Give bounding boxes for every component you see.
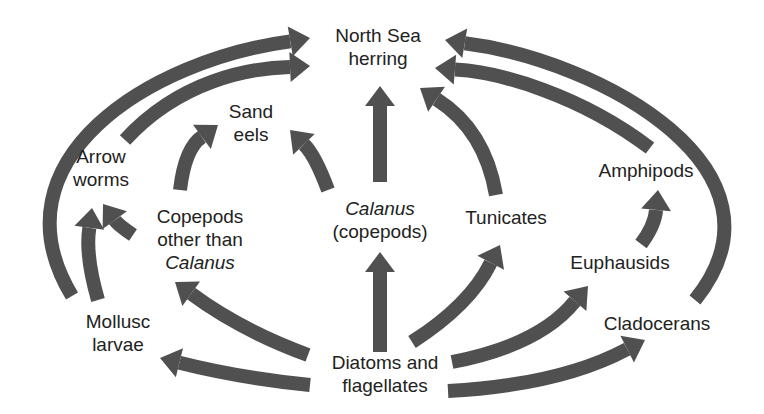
arrow-head-euphausids-to-amphipods (641, 190, 671, 211)
node-label-line: Cladocerans (604, 312, 711, 335)
node-arrow-worms: Arrowworms (73, 145, 129, 191)
node-label-line: larvae (86, 333, 150, 356)
arrow-shaft-copepods-other-to-sand-eels (180, 137, 202, 190)
arrow-shaft-diatoms-to-copepods-other (191, 294, 308, 355)
arrow-head-diatoms-to-calanus (365, 252, 395, 272)
node-label-line: North Sea (335, 24, 421, 47)
arrow-head-calanus-to-herring (365, 86, 395, 106)
node-label-line: Arrow (73, 145, 129, 168)
node-label-line: worms (73, 168, 129, 191)
food-web-diagram: North Seaherring Sandeels Arrowworms Cop… (0, 0, 764, 414)
node-label-line: Calanus (157, 251, 244, 274)
node-label-line: herring (335, 47, 421, 70)
node-tunicates: Tunicates (465, 206, 547, 229)
node-label-line: eels (229, 123, 273, 146)
node-label-line: other than (157, 228, 244, 251)
arrow-shaft-amphipods-to-herring (455, 70, 650, 148)
node-label-line: Mollusc (86, 310, 150, 333)
arrow-shaft-calanus-to-sand-eels (304, 144, 328, 190)
arrow-head-arrow-worms-to-herring (289, 52, 310, 82)
arrow-head-cladocerans-to-herring (445, 28, 467, 58)
node-copepods-other-than-calanus: Copepodsother thanCalanus (157, 205, 244, 274)
node-calanus-copepods: Calanus(copepods) (332, 197, 427, 243)
node-label-line: (copepods) (332, 220, 427, 243)
node-label-line: Copepods (157, 205, 244, 228)
arrow-shaft-tunicates-to-herring (437, 99, 496, 195)
arrow-head-mollusc-larvae-to-herring (288, 27, 310, 57)
node-north-sea-herring: North Seaherring (335, 24, 421, 70)
arrow-shaft-diatoms-to-tunicates (412, 263, 491, 342)
node-label-line: Diatoms and (332, 351, 439, 374)
arrow-head-mollusc-larvae-to-arrow-worms (74, 208, 104, 230)
arrow-shaft-diatoms-to-euphausids (452, 301, 575, 362)
node-label-line: Sand (229, 100, 273, 123)
node-sand-eels: Sandeels (229, 100, 273, 146)
node-label-line: Euphausids (570, 251, 669, 274)
node-label-line: Calanus (332, 197, 427, 220)
node-euphausids: Euphausids (570, 251, 669, 274)
arrow-shaft-euphausids-to-amphipods (641, 210, 656, 244)
node-label-line: flagellates (332, 374, 439, 397)
arrow-shaft-diatoms-to-mollusc-larvae (179, 363, 310, 385)
node-cladocerans: Cladocerans (604, 312, 711, 335)
arrow-shaft-copepods-other-to-arrow-worms (115, 220, 133, 235)
node-amphipods: Amphipods (598, 159, 693, 182)
node-label-line: Amphipods (598, 159, 693, 182)
node-diatoms-and-flagellates: Diatoms andflagellates (332, 351, 439, 397)
arrow-shaft-mollusc-larvae-to-arrow-worms (88, 228, 98, 300)
node-label-line: Tunicates (465, 206, 547, 229)
arrow-head-amphipods-to-herring (435, 55, 456, 85)
node-mollusc-larvae: Mollusclarvae (86, 310, 150, 356)
